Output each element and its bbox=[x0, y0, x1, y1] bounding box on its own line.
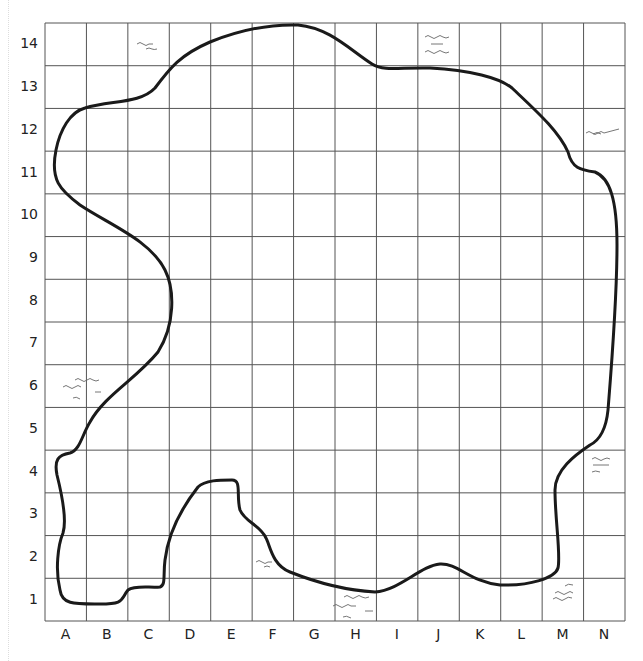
water-icon bbox=[63, 379, 101, 400]
water-icon bbox=[553, 584, 573, 600]
water-icon bbox=[256, 561, 272, 568]
water-marks bbox=[63, 36, 619, 619]
water-icon bbox=[586, 129, 619, 135]
water-icon bbox=[592, 458, 610, 473]
water-icon bbox=[333, 596, 373, 619]
island-map bbox=[0, 0, 643, 661]
island-outline bbox=[54, 25, 617, 604]
water-icon bbox=[425, 36, 449, 54]
water-icon bbox=[137, 43, 157, 50]
